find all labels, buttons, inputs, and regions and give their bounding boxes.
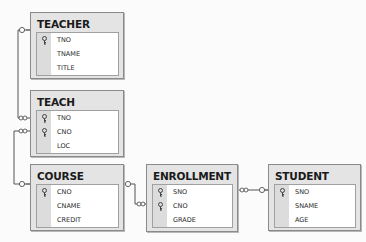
field-row[interactable]: TNO — [37, 111, 118, 125]
field-list: TNO TNAME TITLE — [36, 32, 119, 76]
table-course[interactable]: COURSE CNO CNAME CREDIT — [30, 164, 124, 231]
field-row[interactable]: CREDIT — [37, 213, 118, 227]
field-row[interactable]: TITLE — [37, 61, 118, 75]
field-row[interactable]: TNAME — [37, 47, 118, 61]
table-title: COURSE — [31, 165, 123, 183]
field-row[interactable]: GRADE — [153, 213, 232, 227]
field-name: TNO — [57, 36, 71, 44]
field-row[interactable]: AGE — [275, 213, 355, 227]
field-row[interactable]: SNAME — [275, 199, 355, 213]
field-indicator — [275, 213, 289, 227]
table-teach[interactable]: TEACH TNO CNO LOC — [30, 90, 124, 157]
field-name: TNAME — [57, 50, 80, 58]
key-end-icon — [259, 187, 264, 192]
field-row[interactable]: CNAME — [37, 199, 118, 213]
primary-key-icon — [153, 185, 167, 199]
infinity-end-icon — [137, 202, 145, 206]
field-name: CNAME — [57, 202, 81, 210]
relationship-course-teach — [14, 131, 30, 184]
field-indicator — [37, 213, 51, 227]
field-row[interactable]: SNO — [275, 185, 355, 199]
field-indicator — [37, 139, 51, 153]
primary-key-icon — [37, 185, 51, 199]
field-list: SNO SNAME AGE — [274, 184, 356, 228]
field-name: SNO — [173, 188, 187, 196]
field-name: CNO — [57, 188, 72, 196]
table-title: STUDENT — [269, 165, 360, 183]
field-name: CNO — [57, 128, 72, 136]
field-row[interactable]: CNO — [37, 125, 118, 139]
primary-key-icon — [37, 125, 51, 139]
field-indicator — [153, 213, 167, 227]
field-indicator — [37, 199, 51, 213]
field-name: GRADE — [173, 216, 196, 224]
field-name: AGE — [295, 216, 308, 224]
key-end-icon — [19, 181, 24, 186]
field-indicator — [275, 199, 289, 213]
primary-key-icon — [37, 111, 51, 125]
field-name: LOC — [57, 142, 70, 150]
table-title: TEACHER — [31, 13, 123, 31]
table-title: ENROLLMENT — [147, 165, 237, 183]
primary-key-icon — [153, 199, 167, 213]
field-list: SNO CNO GRADE — [152, 184, 233, 228]
infinity-end-icon — [19, 116, 27, 120]
field-row[interactable]: TNO — [37, 33, 118, 47]
field-name: CREDIT — [57, 216, 81, 224]
field-list: TNO CNO LOC — [36, 110, 119, 154]
field-row[interactable]: SNO — [153, 185, 232, 199]
field-name: TITLE — [57, 64, 75, 72]
field-row[interactable]: CNO — [153, 199, 232, 213]
relationship-course-enrollment — [123, 184, 146, 204]
key-end-icon — [19, 27, 24, 32]
field-name: TNO — [57, 114, 71, 122]
table-teacher[interactable]: TEACHER TNO TNAME TITLE — [30, 12, 124, 79]
field-name: SNO — [295, 188, 309, 196]
table-title: TEACH — [31, 91, 123, 109]
field-row[interactable]: CNO — [37, 185, 118, 199]
field-row[interactable]: LOC — [37, 139, 118, 153]
field-indicator — [37, 47, 51, 61]
field-name: SNAME — [295, 202, 318, 210]
relationship-teacher-teach — [18, 30, 30, 118]
primary-key-icon — [37, 33, 51, 47]
table-enrollment[interactable]: ENROLLMENT SNO CNO GRADE — [146, 164, 238, 232]
field-indicator — [37, 61, 51, 75]
field-list: CNO CNAME CREDIT — [36, 184, 119, 228]
key-end-icon — [125, 181, 130, 186]
infinity-end-icon — [19, 129, 27, 133]
infinity-end-icon — [240, 188, 248, 192]
primary-key-icon — [275, 185, 289, 199]
field-name: CNO — [173, 202, 188, 210]
table-student[interactable]: STUDENT SNO SNAME AGE — [268, 164, 361, 231]
